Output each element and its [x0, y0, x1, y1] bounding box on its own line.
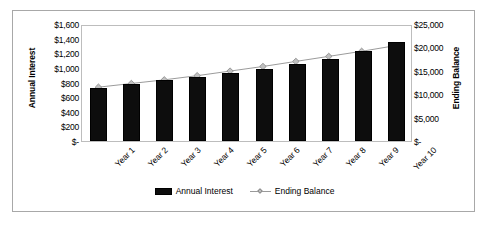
- chart-legend: Annual Interest Ending Balance: [13, 186, 476, 196]
- legend-label-ending-balance: Ending Balance: [275, 186, 335, 196]
- x-axis-label-year-2: Year 2: [146, 145, 170, 169]
- y-axis-right-tick-label: $-: [414, 138, 421, 147]
- bar-annual-interest: [189, 77, 206, 141]
- bar-annual-interest: [222, 73, 239, 141]
- y-axis-left-ticks: $-$200$400$600$800$1,000$1,200$1,400$1,6…: [35, 24, 79, 142]
- x-axis-label-year-7: Year 7: [311, 145, 335, 169]
- bar-annual-interest: [322, 59, 339, 141]
- plot-inner: [82, 26, 411, 141]
- x-axis-label-year-8: Year 8: [344, 145, 368, 169]
- legend-label-annual-interest: Annual Interest: [176, 186, 233, 196]
- x-axis-label-year-9: Year 9: [377, 145, 401, 169]
- y-axis-right-tick-label: $25,000: [414, 21, 443, 30]
- y-axis-left-tick-label: $1,400: [54, 35, 79, 44]
- plot-area: [81, 25, 412, 142]
- bar-annual-interest: [123, 84, 140, 141]
- y-axis-right-tick-label: $10,000: [414, 91, 443, 100]
- bar-annual-interest: [90, 88, 107, 141]
- y-axis-left-tick-label: $200: [61, 123, 79, 132]
- y-axis-left-tick-label: $800: [61, 79, 79, 88]
- y-axis-right-tick-label: $15,000: [414, 68, 443, 77]
- y-axis-right-tick-label: $20,000: [414, 44, 443, 53]
- y-axis-left-tick-label: $1,600: [54, 21, 79, 30]
- bar-swatch-icon: [155, 188, 172, 195]
- x-axis-category-labels: Year 1Year 2Year 3Year 4Year 5Year 6Year…: [81, 143, 412, 187]
- bar-annual-interest: [388, 42, 405, 141]
- y-axis-left-tick-label: $1,200: [54, 50, 79, 59]
- x-axis-label-year-5: Year 5: [245, 145, 269, 169]
- ending-balance-line: [98, 46, 394, 87]
- x-axis-label-year-3: Year 3: [179, 145, 203, 169]
- bar-annual-interest: [355, 51, 372, 141]
- bar-annual-interest: [289, 64, 306, 141]
- legend-entry-ending-balance: Ending Balance: [250, 186, 335, 196]
- y-axis-right-tick-label: $5,000: [414, 114, 439, 123]
- x-axis-label-year-1: Year 1: [112, 145, 136, 169]
- bar-annual-interest: [256, 69, 273, 141]
- y-axis-left-tick-label: $-: [72, 138, 79, 147]
- y-axis-left-tick-label: $400: [61, 109, 79, 118]
- y-axis-left-tick-label: $1,000: [54, 65, 79, 74]
- y-axis-left-tick-label: $600: [61, 94, 79, 103]
- y-axis-right-ticks: $-$5,000$10,000$15,000$20,000$25,000: [414, 24, 460, 142]
- line-marker-swatch-icon: [250, 187, 271, 195]
- x-axis-label-year-4: Year 4: [212, 145, 236, 169]
- x-axis-label-year-10: Year 10: [412, 145, 439, 172]
- legend-entry-annual-interest: Annual Interest: [155, 186, 233, 196]
- x-axis-label-year-6: Year 6: [278, 145, 302, 169]
- bar-annual-interest: [156, 80, 173, 141]
- chart-frame: Annual Interest Ending Balance $-$200$40…: [12, 10, 475, 212]
